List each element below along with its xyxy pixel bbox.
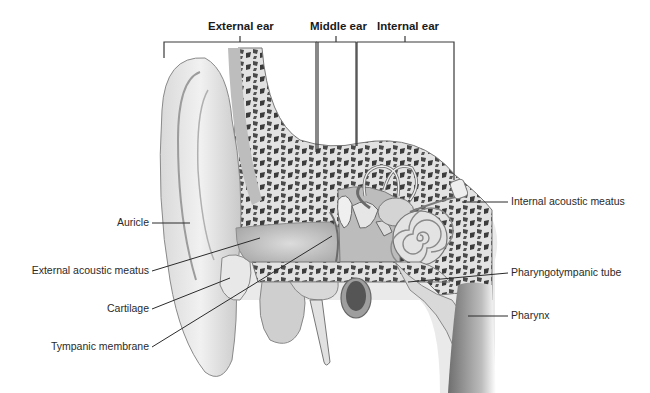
- styloid-process: [310, 300, 330, 365]
- region-label-middle-ear: Middle ear: [310, 20, 367, 32]
- bracket-middle-ear: [316, 36, 356, 146]
- label-auricle: Auricle: [117, 216, 149, 228]
- region-label-internal-ear: Internal ear: [377, 20, 439, 32]
- label-pharynx: Pharynx: [511, 309, 550, 321]
- carotid-canal: [341, 278, 371, 318]
- label-internal-acoustic-meatus: Internal acoustic meatus: [511, 195, 625, 207]
- label-cartilage: Cartilage: [107, 302, 149, 314]
- ear-canal: [236, 222, 345, 265]
- label-external-acoustic-meatus: External acoustic meatus: [32, 264, 149, 276]
- label-tympanic-membrane: Tympanic membrane: [51, 340, 149, 352]
- auricle-shape: [160, 58, 241, 377]
- region-label-external-ear: External ear: [208, 20, 274, 32]
- label-pharyngotympanic-tube: Pharyngotympanic tube: [511, 266, 621, 278]
